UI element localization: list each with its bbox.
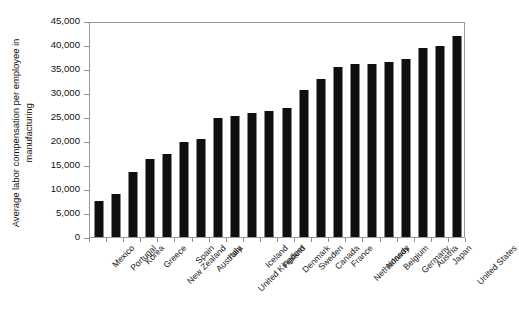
bar[interactable]	[179, 142, 188, 237]
bar[interactable]	[282, 108, 291, 237]
bar-slot	[141, 23, 158, 237]
y-axis-ticks: 05,00010,00015,00020,00025,00030,00035,0…	[0, 22, 89, 238]
bar[interactable]	[128, 172, 137, 237]
bar-slot	[346, 23, 363, 237]
x-axis-tick-mark	[431, 238, 432, 242]
bar-slot	[227, 23, 244, 237]
y-axis-tick-label: 45,000	[51, 15, 80, 26]
y-axis-tick-label: 30,000	[51, 87, 80, 98]
bar-slot	[261, 23, 278, 237]
x-axis-tick-mark	[157, 238, 158, 242]
x-axis-tick-mark	[89, 238, 90, 242]
x-axis-tick-mark	[345, 238, 346, 242]
x-axis-tick-label: Greece	[161, 243, 188, 270]
x-axis-tick-label-text: Greece	[161, 243, 188, 270]
bar-slot	[210, 23, 227, 237]
x-axis-tick-mark	[294, 238, 295, 242]
bar-slot	[158, 23, 175, 237]
bar-slot	[244, 23, 261, 237]
x-axis-labels: MexicoPortugalKoreaGreeceNew ZealandSpai…	[89, 243, 465, 314]
y-axis-tick-label: 5,000	[56, 207, 80, 218]
bar-slot	[363, 23, 380, 237]
x-axis-tick-mark	[243, 238, 244, 242]
bar-slot	[312, 23, 329, 237]
x-axis-tick-mark	[380, 238, 381, 242]
y-axis-tick-label: 40,000	[51, 39, 80, 50]
bar[interactable]	[316, 79, 325, 237]
bar[interactable]	[367, 64, 376, 237]
bar[interactable]	[145, 159, 154, 237]
bar-slot	[398, 23, 415, 237]
x-axis-tick-mark	[209, 238, 210, 242]
x-axis-tick-mark	[260, 238, 261, 242]
bar[interactable]	[94, 201, 103, 237]
y-axis-tick-label: 15,000	[51, 159, 80, 170]
bar-slot	[329, 23, 346, 237]
bar-slot	[124, 23, 141, 237]
x-axis-tick-mark	[226, 238, 227, 242]
bar[interactable]	[402, 59, 411, 237]
x-axis-tick-mark	[140, 238, 141, 242]
bar-slot	[295, 23, 312, 237]
x-axis-tick-mark	[174, 238, 175, 242]
bar[interactable]	[419, 48, 428, 237]
bar[interactable]	[197, 139, 206, 237]
x-axis-tick-mark	[277, 238, 278, 242]
bar-slot	[278, 23, 295, 237]
x-axis-tick-mark	[106, 238, 107, 242]
x-axis-tick-mark	[192, 238, 193, 242]
bar[interactable]	[248, 113, 257, 237]
bar[interactable]	[333, 67, 342, 237]
y-axis-tick-label: 25,000	[51, 111, 80, 122]
bar[interactable]	[453, 36, 462, 237]
x-axis-tick-mark	[448, 238, 449, 242]
x-axis-tick-mark	[123, 238, 124, 242]
bar[interactable]	[231, 116, 240, 237]
bar-slot	[449, 23, 466, 237]
x-axis-tick-label-text: United States	[476, 243, 519, 287]
bar[interactable]	[350, 64, 359, 237]
bar-slot	[415, 23, 432, 237]
bars-layer	[90, 23, 464, 237]
bar-slot	[175, 23, 192, 237]
bar[interactable]	[265, 111, 274, 237]
bar-slot	[193, 23, 210, 237]
y-axis-tick-label: 20,000	[51, 135, 80, 146]
y-axis-tick-label: 35,000	[51, 63, 80, 74]
bar-slot	[381, 23, 398, 237]
x-axis-tick-mark	[328, 238, 329, 242]
bar[interactable]	[299, 90, 308, 237]
bar[interactable]	[436, 46, 445, 237]
x-axis-tick-mark	[465, 238, 466, 242]
x-axis-tick-label: United States	[476, 243, 519, 287]
bar-slot	[90, 23, 107, 237]
plot-area	[89, 22, 465, 238]
y-axis-tick-label: 0	[75, 231, 80, 242]
bar[interactable]	[385, 62, 394, 237]
x-axis-tick-mark	[397, 238, 398, 242]
x-axis-tick-mark	[414, 238, 415, 242]
bar[interactable]	[111, 194, 120, 237]
x-axis-tick-mark	[362, 238, 363, 242]
y-axis-tick-label: 10,000	[51, 183, 80, 194]
bar[interactable]	[214, 118, 223, 237]
x-axis-tick-mark	[311, 238, 312, 242]
bar-slot	[432, 23, 449, 237]
bar[interactable]	[162, 154, 171, 237]
bar-slot	[107, 23, 124, 237]
